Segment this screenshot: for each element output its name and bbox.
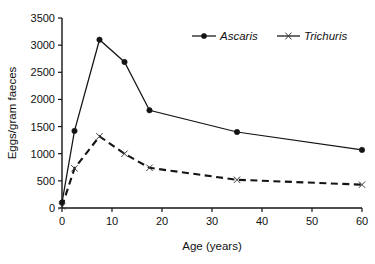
data-point-marker [234,129,239,134]
x-axis-title: Age (years) [182,240,242,252]
y-axis-ticks: 0500100015002000250030003500 [31,12,62,214]
data-point-marker [72,128,77,133]
x-tick-label: 20 [156,215,168,227]
legend-label-trichuris: Trichuris [304,30,347,42]
y-tick-label: 3000 [31,39,55,51]
y-tick-label: 500 [37,175,55,187]
data-point-marker [121,151,127,157]
data-point-marker [122,59,127,64]
series-ascaris [59,37,364,205]
legend-marker-filled-circle-icon [201,33,206,38]
series-trichuris [59,133,365,209]
chart-legend: Ascaris Trichuris [192,30,347,42]
x-tick-label: 30 [206,215,218,227]
y-tick-label: 2500 [31,66,55,78]
y-tick-label: 1500 [31,121,55,133]
y-tick-label: 1000 [31,148,55,160]
chart-container: 0500100015002000250030003500 01020304050… [0,0,375,264]
legend-label-ascaris: Ascaris [219,30,258,42]
x-tick-label: 60 [356,215,368,227]
y-tick-label: 0 [49,202,55,214]
data-series-layer [59,37,365,210]
x-tick-label: 0 [59,215,65,227]
data-point-marker [96,133,102,139]
y-tick-label: 3500 [31,12,55,24]
data-point-marker [359,147,364,152]
x-tick-label: 50 [306,215,318,227]
x-axis-ticks: 0102030405060 [59,208,368,227]
y-axis-title: Eggs/gram faeces [6,66,18,159]
data-point-marker [97,37,102,42]
data-point-marker [147,108,152,113]
series-line-trichuris [62,136,362,206]
x-tick-label: 40 [256,215,268,227]
legend-item-trichuris: Trichuris [277,30,347,42]
y-tick-label: 2000 [31,93,55,105]
x-tick-label: 10 [106,215,118,227]
legend-item-ascaris: Ascaris [192,30,258,42]
line-chart: 0500100015002000250030003500 01020304050… [0,0,375,264]
series-line-ascaris [62,40,362,203]
